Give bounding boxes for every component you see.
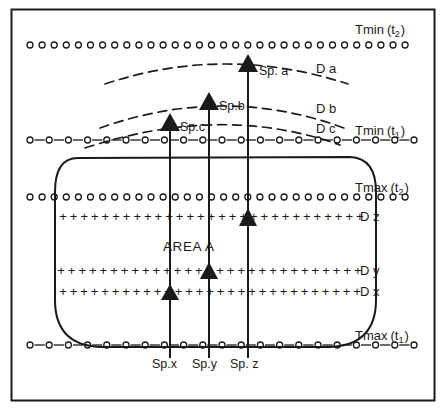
- isotherm-marker: [184, 42, 190, 48]
- isotherm-marker: [245, 42, 251, 48]
- isotherm-marker: [411, 342, 417, 348]
- isotherm-marker: [136, 194, 142, 200]
- isotherm-marker: [39, 194, 45, 200]
- isotherm-marker: [160, 194, 166, 200]
- isotherm-marker: [39, 42, 45, 48]
- isotherm-marker: [88, 42, 94, 48]
- plus-marker: +: [217, 284, 225, 299]
- arrow-column-spx: [160, 113, 180, 358]
- plus-marker: +: [290, 284, 298, 299]
- plus-marker: +: [332, 284, 340, 299]
- isotherm-marker: [148, 42, 154, 48]
- plus-marker: +: [110, 263, 118, 278]
- plus-marker: +: [280, 284, 288, 299]
- isotherm-marker: [85, 137, 91, 143]
- isotherm-marker: [27, 137, 33, 143]
- plus-marker: +: [91, 209, 99, 224]
- plus-marker: +: [80, 284, 88, 299]
- dispersal-arc-dc: [85, 125, 340, 148]
- label-dz: D z: [360, 209, 380, 224]
- label-db: D b: [316, 101, 336, 116]
- isotherm-marker: [342, 42, 348, 48]
- isotherm-marker: [209, 42, 215, 48]
- plus-marker: +: [154, 284, 162, 299]
- plus-marker: +: [335, 209, 343, 224]
- label-tmin-t2-sub: 2: [395, 29, 400, 39]
- plus-marker: +: [144, 209, 152, 224]
- plus-marker: +: [186, 209, 194, 224]
- isotherm-marker: [281, 42, 287, 48]
- plus-marker: +: [290, 263, 298, 278]
- label-dy: D y: [360, 263, 380, 278]
- plus-marker: +: [78, 263, 86, 278]
- plus-marker: +: [216, 263, 224, 278]
- dispersal-arc-da: [105, 64, 348, 84]
- isotherm-marker: [305, 194, 311, 200]
- isotherm-marker: [269, 42, 275, 48]
- isotherm-marker: [75, 194, 81, 200]
- plus-marker: +: [184, 263, 192, 278]
- label-da: D a: [316, 61, 337, 76]
- isotherm-marker: [161, 137, 167, 143]
- label-dx: D x: [360, 284, 380, 299]
- plus-marker: +: [102, 209, 110, 224]
- plus-marker: +: [100, 263, 108, 278]
- isotherm-marker: [65, 137, 71, 143]
- plus-marker: +: [269, 284, 277, 299]
- isotherm-marker: [221, 42, 227, 48]
- plus-marker: +: [70, 284, 78, 299]
- isotherm-marker: [257, 194, 263, 200]
- isotherm-marker: [219, 137, 225, 143]
- isotherm-marker: [172, 194, 178, 200]
- isotherm-marker: [277, 137, 283, 143]
- isotherm-marker: [378, 42, 384, 48]
- figure-canvas: +++++++++++++++++++++++++++++ ++++++++++…: [0, 0, 446, 413]
- isotherm-marker: [411, 137, 417, 143]
- plus-marker: +: [91, 284, 99, 299]
- arrowhead-spb-db: [199, 92, 219, 110]
- plus-marker: +: [282, 209, 290, 224]
- plus-marker: +: [195, 263, 203, 278]
- isotherm-marker: [402, 42, 408, 48]
- isotherm-marker: [334, 137, 340, 143]
- plus-marker: +: [301, 263, 309, 278]
- isotherm-marker: [46, 342, 52, 348]
- plus-marker: +: [68, 263, 76, 278]
- isotherm-marker: [181, 137, 187, 143]
- label-sp-b: Sp.b: [219, 99, 245, 113]
- plus-marker: +: [133, 284, 141, 299]
- plus-marker: +: [301, 284, 309, 299]
- plus-marker: +: [143, 284, 151, 299]
- plus-marker: +: [89, 263, 97, 278]
- plus-marker: +: [176, 209, 184, 224]
- plus-marker: +: [259, 263, 267, 278]
- plus-marker: +: [122, 284, 130, 299]
- plus-marker: +: [196, 284, 204, 299]
- plus-marker: +: [121, 263, 129, 278]
- plus-marker: +: [322, 284, 330, 299]
- isotherm-marker: [257, 42, 263, 48]
- area-boundary: [55, 157, 376, 347]
- plus-marker: +: [227, 284, 235, 299]
- label-tmin-t1-paren-close: ): [401, 123, 405, 138]
- isotherm-marker: [296, 137, 302, 143]
- isotherm-marker: [330, 42, 336, 48]
- plus-marker: +: [343, 284, 351, 299]
- label-dc: D c: [316, 121, 336, 136]
- isotherm-marker: [172, 42, 178, 48]
- plus-marker: +: [59, 284, 67, 299]
- isotherm-marker: [123, 137, 129, 143]
- isotherm-marker: [293, 194, 299, 200]
- plus-marker: +: [218, 209, 226, 224]
- isotherm-marker: [51, 42, 57, 48]
- isotherm-marker: [233, 194, 239, 200]
- isotherm-marker: [196, 42, 202, 48]
- label-tmin-t1: Tmin(t1): [355, 123, 405, 140]
- isotherm-marker: [124, 194, 130, 200]
- arrowhead-spc-dc: [160, 113, 180, 131]
- label-tmax-t1: Tmax(t1): [355, 328, 409, 345]
- isotherm-marker: [124, 42, 130, 48]
- plus-marker: +: [259, 284, 267, 299]
- isotherm-marker: [269, 194, 275, 200]
- isotherm-marker: [27, 42, 33, 48]
